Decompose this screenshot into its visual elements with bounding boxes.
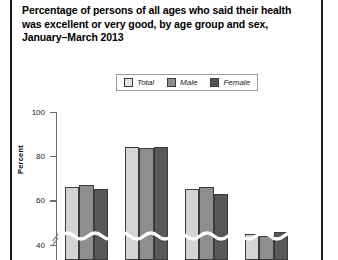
- bar-male[interactable]: [139, 112, 153, 260]
- bar-fill: [199, 187, 213, 260]
- bar-total[interactable]: [65, 112, 79, 260]
- bar-total[interactable]: [185, 112, 199, 260]
- bar-total[interactable]: [245, 112, 259, 260]
- bar-fill: [259, 236, 273, 260]
- bar-male[interactable]: [199, 112, 213, 260]
- y-tick-label-100: 100: [32, 108, 45, 117]
- y-tick-80: 80: [50, 156, 56, 157]
- legend-label-total: Total: [137, 78, 154, 87]
- bar-fill: [139, 148, 153, 260]
- legend-item-total: Total: [124, 78, 154, 87]
- bar-fill: [214, 194, 228, 260]
- bar-female[interactable]: [94, 112, 108, 260]
- y-tick-60: 60: [50, 200, 56, 201]
- bar-group: [65, 112, 108, 260]
- bar-fill: [79, 185, 93, 260]
- bar-fill: [65, 187, 79, 260]
- page-border-left: [10, 0, 12, 260]
- y-axis-label: Percent: [16, 145, 25, 174]
- legend-swatch-female-icon: [210, 78, 219, 87]
- bar-female[interactable]: [154, 112, 168, 260]
- bar-female[interactable]: [274, 112, 288, 260]
- legend-swatch-total-icon: [124, 78, 133, 87]
- y-tick-label-40: 40: [36, 240, 45, 249]
- bar-groups: [62, 112, 302, 260]
- bar-fill: [185, 189, 199, 260]
- figure-page: Percentage of persons of all ages who sa…: [0, 0, 338, 260]
- bar-male[interactable]: [79, 112, 93, 260]
- y-tick-label-80: 80: [36, 152, 45, 161]
- legend-swatch-male-icon: [167, 78, 176, 87]
- page-border-right: [321, 0, 323, 260]
- legend-label-male: Male: [180, 78, 197, 87]
- legend-item-male: Male: [167, 78, 197, 87]
- bar-total[interactable]: [125, 112, 139, 260]
- chart-legend: Total Male Female: [116, 74, 258, 91]
- bar-fill: [154, 147, 168, 260]
- legend-label-female: Female: [223, 78, 250, 87]
- y-tick-label-60: 60: [36, 196, 45, 205]
- bar-group: [185, 112, 228, 260]
- bar-fill: [125, 147, 139, 260]
- bar-male[interactable]: [259, 112, 273, 260]
- chart-plot-area: Percent 100806040: [62, 112, 302, 260]
- figure-title: Percentage of persons of all ages who sa…: [22, 4, 312, 45]
- bar-group: [125, 112, 168, 260]
- bar-fill: [245, 234, 259, 260]
- bar-fill: [94, 189, 108, 260]
- bar-female[interactable]: [214, 112, 228, 260]
- bar-fill: [274, 232, 288, 260]
- y-tick-100: 100: [50, 112, 56, 113]
- legend-item-female: Female: [210, 78, 250, 87]
- bar-group: [245, 112, 288, 260]
